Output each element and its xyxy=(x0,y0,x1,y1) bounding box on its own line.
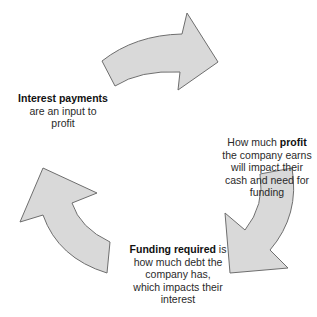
node-interest-text: are an input toprofit xyxy=(29,105,96,130)
node-interest-title: Interest payments xyxy=(18,92,108,104)
arrow-funding-to-interest xyxy=(20,168,110,273)
node-profit-text: the company earnswill impact theircash a… xyxy=(222,149,311,199)
node-profit-pre: How much xyxy=(227,136,280,148)
node-funding-text: how much debt thecompany has,which impac… xyxy=(133,256,222,306)
node-funding-is: is xyxy=(216,243,227,255)
node-profit: How much profit the company earnswill im… xyxy=(212,136,317,199)
node-funding-title: Funding required xyxy=(130,243,216,255)
arrow-interest-to-profit xyxy=(102,13,218,90)
node-interest-payments: Interest payments are an input toprofit xyxy=(8,92,118,130)
node-profit-title: profit xyxy=(280,136,307,148)
node-funding-required: Funding required is how much debt thecom… xyxy=(118,243,238,306)
